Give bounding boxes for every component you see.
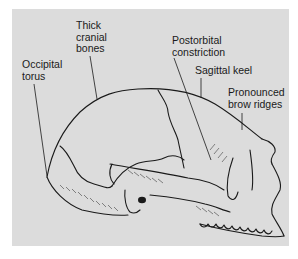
label-sagittal-keel: Sagittal keel: [195, 65, 252, 77]
leader-thick-cranial-bones: [90, 56, 97, 99]
cheek-outline: [227, 158, 238, 199]
occipital-hatching: [60, 185, 118, 211]
lambdoid-suture: [60, 146, 112, 188]
label-occipital-torus: Occipital torus: [22, 59, 62, 82]
ear-opening: [138, 197, 146, 203]
brow-ridge: [262, 139, 275, 164]
label-pronounced-brow-ridges: Pronounced brow ridges: [228, 87, 285, 110]
label-postorbital-constriction: Postorbital constriction: [172, 35, 225, 58]
cheek-outline-2: [250, 150, 253, 190]
label-thick-cranial-bones: Thick cranial bones: [76, 20, 107, 55]
temporal-line: [110, 164, 114, 184]
ear-region: [125, 190, 140, 213]
brow-hatching: [210, 144, 227, 162]
face-profile: [272, 164, 284, 236]
skull-illustration: [0, 0, 298, 259]
leader-occipital-torus: [34, 84, 47, 176]
arch-lower: [150, 195, 230, 212]
zygomatic-arch: [110, 164, 224, 190]
occipital-outline: [47, 177, 128, 215]
